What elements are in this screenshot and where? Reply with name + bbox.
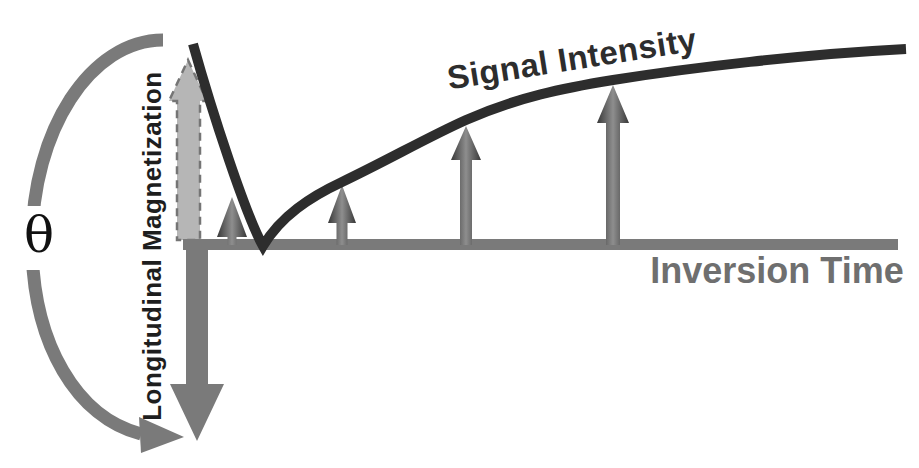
flip-angle-arc-arrowhead-icon	[139, 417, 184, 453]
inverted-magnetization-arrow-icon	[170, 243, 224, 441]
time-axis	[183, 239, 898, 250]
theta-label: θ	[24, 206, 54, 264]
inversion-recovery-diagram: θ Longitudinal Magnetization Signal Inte…	[0, 0, 919, 468]
recovery-arrow-icon	[328, 185, 356, 245]
recovery-arrow-icon	[597, 85, 629, 245]
recovery-arrow-icon	[451, 126, 481, 245]
inversion-time-label: Inversion Time	[650, 250, 903, 292]
y-axis-label: Longitudinal Magnetization	[137, 71, 168, 421]
